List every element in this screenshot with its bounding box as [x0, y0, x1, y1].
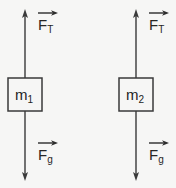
body1-gravity-subscript: g: [47, 154, 53, 165]
body1-tension-label: FT: [38, 17, 53, 32]
body1-tension-subscript: T: [47, 24, 53, 35]
body2-gravity-label: Fg: [149, 147, 164, 162]
body1-mass-symbol: m: [15, 86, 28, 103]
body1-mass-label: m1: [15, 87, 33, 102]
body2-tension-subscript: T: [158, 24, 164, 35]
body2-tension-symbol: F: [149, 16, 158, 33]
body2-tension-label: FT: [149, 17, 164, 32]
body1-gravity-label: Fg: [38, 147, 53, 162]
body2-mass-symbol: m: [126, 86, 139, 103]
body1-tension-symbol: F: [38, 16, 47, 33]
free-body-diagram: FT Fg m1 FT Fg m2: [0, 0, 176, 188]
body1-mass-subscript: 1: [28, 94, 34, 105]
body2-mass-label: m2: [126, 87, 144, 102]
body2-mass-subscript: 2: [139, 94, 145, 105]
body2-gravity-symbol: F: [149, 146, 158, 163]
body1-gravity-symbol: F: [38, 146, 47, 163]
body2-gravity-subscript: g: [158, 154, 164, 165]
